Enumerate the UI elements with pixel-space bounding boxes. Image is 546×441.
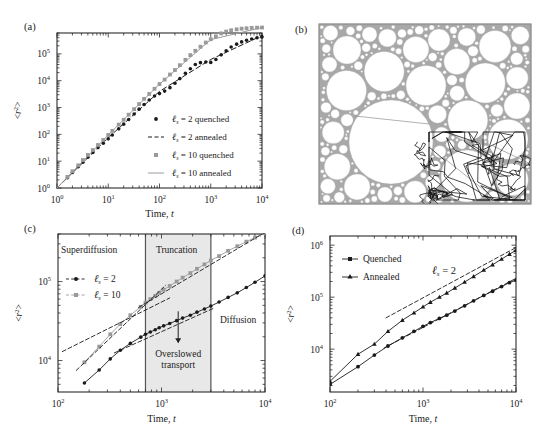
svg-text:(b): (b): [295, 24, 308, 36]
svg-text:ℓs = 10 annealed: ℓs = 10 annealed: [172, 167, 232, 179]
svg-text:ℓs = 2 quenched: ℓs = 2 quenched: [172, 113, 230, 125]
svg-text:104: 104: [310, 343, 324, 355]
panel-d-plot: (d)QuenchedAnnealedℓs = 2102103104104105…: [270, 212, 546, 441]
svg-text:<r2>: <r2>: [285, 305, 297, 323]
panel-b: (b): [273, 0, 546, 212]
svg-text:104: 104: [510, 397, 524, 409]
svg-text:102: 102: [37, 128, 50, 140]
svg-text:(d): (d): [292, 225, 305, 237]
svg-text:Overslowed: Overslowed: [155, 349, 201, 359]
svg-text:103: 103: [155, 397, 168, 409]
panel-a: (a)100101102103104100101102103104105Time…: [0, 0, 273, 212]
svg-text:102: 102: [52, 397, 65, 409]
svg-text:Quenched: Quenched: [363, 254, 402, 264]
svg-text:101: 101: [102, 193, 115, 205]
svg-text:106: 106: [310, 239, 324, 251]
svg-text:Time, t: Time, t: [409, 413, 438, 424]
svg-text:Superdiffusion: Superdiffusion: [61, 245, 118, 255]
svg-text:<r2>: <r2>: [13, 304, 25, 322]
svg-text:104: 104: [256, 193, 270, 205]
svg-text:103: 103: [37, 101, 50, 113]
svg-text:Diffusion: Diffusion: [220, 315, 256, 325]
svg-text:101: 101: [37, 155, 50, 167]
panel-a-plot: (a)100101102103104100101102103104105Time…: [0, 0, 273, 212]
panel-b-packing: (b): [273, 0, 546, 212]
svg-text:100: 100: [37, 182, 50, 194]
svg-text:Truncation: Truncation: [156, 245, 198, 255]
svg-text:Annealed: Annealed: [363, 272, 400, 282]
svg-text:ℓs = 10: ℓs = 10: [94, 289, 121, 301]
svg-text:103: 103: [417, 397, 430, 409]
panel-c: (c)SuperdiffusionTruncationDiffusionOver…: [0, 212, 280, 441]
svg-text:transport: transport: [161, 360, 195, 370]
svg-text:104: 104: [38, 354, 52, 366]
svg-text:105: 105: [310, 291, 323, 303]
svg-text:102: 102: [324, 397, 337, 409]
svg-text:<r2>: <r2>: [12, 102, 24, 120]
svg-text:100: 100: [51, 193, 64, 205]
figure-root: (a)100101102103104100101102103104105Time…: [0, 0, 546, 441]
svg-text:102: 102: [153, 193, 166, 205]
panel-c-plot: (c)SuperdiffusionTruncationDiffusionOver…: [0, 212, 280, 441]
svg-text:104: 104: [37, 74, 51, 86]
svg-text:105: 105: [37, 47, 50, 59]
svg-text:ℓs = 2: ℓs = 2: [94, 273, 116, 285]
svg-text:103: 103: [204, 193, 217, 205]
svg-text:ℓs = 2 annealed: ℓs = 2 annealed: [172, 131, 227, 143]
svg-text:(a): (a): [24, 21, 36, 33]
svg-text:ℓs = 2: ℓs = 2: [432, 264, 456, 277]
svg-text:(c): (c): [24, 223, 36, 235]
svg-text:ℓs = 10 quenched: ℓs = 10 quenched: [172, 149, 234, 161]
panel-d: (d)QuenchedAnnealedℓs = 2102103104104105…: [270, 212, 546, 441]
svg-text:Time, t: Time, t: [147, 413, 176, 424]
svg-text:105: 105: [38, 275, 51, 287]
